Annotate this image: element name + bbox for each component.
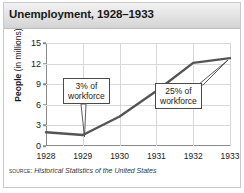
x-tick-label: 1931 [147,151,166,161]
y-axis-label-unit: (in millions) [13,28,23,71]
y-tick-label: 9 [36,79,41,89]
annotation-callout-right: 25% of workforce [155,83,202,109]
y-axis-label: People (in millions) [13,17,23,113]
annotation-right-line1: 25% of [160,86,197,96]
source-label: SOURCE: [9,167,32,174]
annotation-callout-left: 3% of workforce [63,78,110,104]
x-tick-label: 1928 [37,151,56,161]
y-axis-label-bold: People [13,74,23,102]
y-tick-label: 12 [31,59,41,69]
x-tick-label: 1930 [110,151,129,161]
chart-figure: Unemployment, 1928–1933 People (in milli… [0,0,244,193]
y-tick-label: 3 [36,120,41,130]
y-tick-label: 15 [31,38,41,48]
source-title: Historical Statistics of the United Stat… [34,167,156,174]
annotation-left-tail-icon [63,104,99,140]
source-note: SOURCE: Historical Statistics of the Uni… [9,167,156,174]
annotation-left-line2: workforce [68,91,105,101]
chart-title: Unemployment, 1928–1933 [9,8,154,20]
annotation-right-line2: workforce [160,96,197,106]
x-tick-label: 1929 [73,151,92,161]
annotation-left-line1: 3% of [68,81,105,91]
y-tick-label: 6 [36,100,41,110]
y-tick-label: 0 [36,141,41,151]
x-tick-label: 1933 [221,151,240,161]
x-tick-label: 1932 [184,151,203,161]
